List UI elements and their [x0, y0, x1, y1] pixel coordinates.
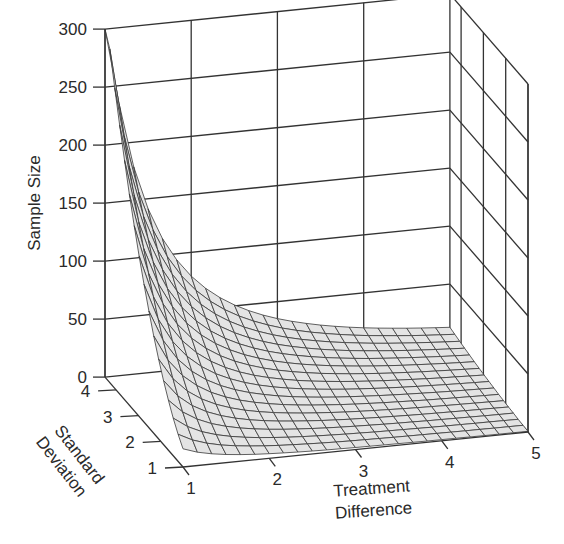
x-tick-label: 3: [359, 462, 368, 481]
y-tick: [165, 467, 183, 468]
y-tick-label: 3: [103, 408, 112, 427]
x-axis-title-line2: Difference: [334, 498, 412, 522]
y-tick-label: 4: [81, 382, 90, 401]
x-tick: [442, 441, 448, 449]
y-tick-label: 2: [125, 433, 134, 452]
z-axis-title: Sample Size: [25, 155, 44, 250]
z-tick-label: 300: [59, 20, 87, 39]
x-tick-label: 1: [186, 479, 195, 498]
z-tick-label: 200: [59, 136, 87, 155]
x-axis-title-line1: Treatment: [333, 476, 411, 500]
y-tick: [120, 416, 138, 417]
x-tick-label: 5: [531, 444, 540, 463]
z-tick-label: 100: [59, 252, 87, 271]
x-tick: [183, 467, 189, 475]
x-tick: [356, 450, 362, 458]
x-tick: [528, 432, 534, 440]
x-tick-label: 4: [445, 453, 454, 472]
y-tick: [98, 390, 116, 391]
x-tick-label: 2: [273, 470, 282, 489]
z-axis-ticks: 050100150200250300: [59, 20, 105, 387]
y-tick: [143, 441, 161, 442]
z-tick-label: 150: [59, 194, 87, 213]
y-tick-label: 1: [148, 459, 157, 478]
z-tick-label: 50: [68, 310, 87, 329]
surface-plot: 050100150200250300 12345 1234 Sample Siz…: [0, 0, 564, 544]
z-tick-label: 250: [59, 78, 87, 97]
x-tick: [269, 458, 275, 466]
surface-mesh: [105, 29, 528, 455]
